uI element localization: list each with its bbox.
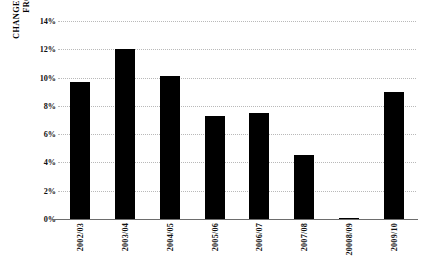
x-tick-label-20008-09: 20008/09 xyxy=(345,223,354,256)
bar-slot xyxy=(282,21,327,219)
x-tick-label-2009-10: 2009/10 xyxy=(390,223,399,251)
bar-2002/03 xyxy=(70,82,90,219)
bar-2003/04 xyxy=(115,49,135,219)
x-axis-baseline xyxy=(52,219,418,220)
x-tick-slot: 2009/10 xyxy=(371,221,416,273)
bar-slot xyxy=(148,21,193,219)
x-tick-slot: 20008/09 xyxy=(327,221,372,273)
y-tick-label-12: 12% xyxy=(28,45,56,54)
x-tick-slot: 2005/06 xyxy=(192,221,237,273)
bar-2004/05 xyxy=(160,76,180,219)
y-tick-label-10: 10% xyxy=(28,73,56,82)
plot-area xyxy=(58,21,416,219)
x-tick-slot: 2002/03 xyxy=(58,221,103,273)
x-tick-label-2004-05: 2004/05 xyxy=(166,223,175,251)
bar-slot xyxy=(58,21,103,219)
x-tick-label-2002-03: 2002/03 xyxy=(76,223,85,251)
x-axis-tick-labels: 2002/032003/042004/052005/062006/072007/… xyxy=(58,221,416,273)
bar-2006/07 xyxy=(249,113,269,219)
y-tick-label-2: 2% xyxy=(28,186,56,195)
bar-slot xyxy=(237,21,282,219)
bar-2005/06 xyxy=(205,116,225,219)
y-tick-label-8: 8% xyxy=(28,101,56,110)
x-tick-label-2003-04: 2003/04 xyxy=(121,223,130,251)
bar-slot xyxy=(103,21,148,219)
bar-2009/10 xyxy=(384,92,404,219)
x-tick-slot: 2007/08 xyxy=(282,221,327,273)
x-tick-slot: 2003/04 xyxy=(103,221,148,273)
x-tick-label-2007-08: 2007/08 xyxy=(300,223,309,251)
y-axis-title-line-1: CHANGE IN LATINO ENROLLMENT xyxy=(12,0,22,39)
x-tick-label-2006-07: 2006/07 xyxy=(255,223,264,251)
latino-enrollment-bar-chart: CHANGE IN LATINO ENROLLMENT FROM PREVIOU… xyxy=(0,0,424,273)
y-tick-label-6: 6% xyxy=(28,130,56,139)
bar-slot xyxy=(371,21,416,219)
bars-container xyxy=(58,21,416,219)
bar-2007/08 xyxy=(294,155,314,219)
y-tick-label-14: 14% xyxy=(28,17,56,26)
x-tick-slot: 2006/07 xyxy=(237,221,282,273)
y-tick-label-4: 4% xyxy=(28,158,56,167)
bar-slot xyxy=(192,21,237,219)
bar-slot xyxy=(327,21,372,219)
x-tick-slot: 2004/05 xyxy=(148,221,193,273)
y-axis-tick-labels: 0%2%4%6%8%10%12%14% xyxy=(28,0,56,273)
x-tick-label-2005-06: 2005/06 xyxy=(211,223,220,251)
